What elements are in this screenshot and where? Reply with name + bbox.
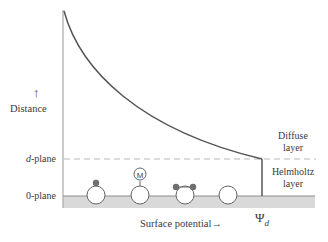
distance-label: Distance <box>10 104 47 115</box>
up-arrow-icon: ↑ <box>33 86 40 99</box>
adsorbed-species-empty-site <box>219 186 237 204</box>
helmholtz-layer-label: Helmholtz layer <box>266 166 320 190</box>
diffuse-layer-label: Diffuse layer <box>270 130 316 154</box>
adsorbed-species-metal-complex: M <box>131 168 149 204</box>
surface-potential-label: Surface potential→ <box>140 219 222 230</box>
zero-plane-label: 0-plane <box>26 191 56 201</box>
adsorbed-species-single-dot <box>87 180 105 204</box>
double-layer-diagram: M <box>0 0 328 242</box>
potential-curve <box>64 11 262 159</box>
psi-d-label: Ψd <box>255 211 269 228</box>
right-arrow-icon: → <box>211 218 222 229</box>
d-plane-label: d-plane <box>26 154 56 164</box>
svg-text:M: M <box>137 171 144 180</box>
